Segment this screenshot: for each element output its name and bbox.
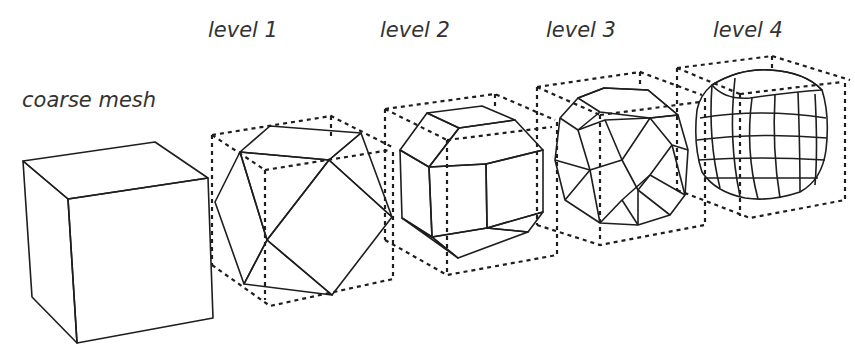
level-1-mesh	[212, 116, 393, 306]
level-3-mesh	[537, 72, 705, 245]
coarse-cube	[23, 142, 213, 343]
subdivision-figure: coarse mesh level 1 level 2 level 3 leve…	[0, 0, 855, 360]
level-2-mesh	[385, 94, 557, 275]
mesh-drawings	[0, 0, 855, 360]
level-4-mesh	[677, 56, 850, 218]
